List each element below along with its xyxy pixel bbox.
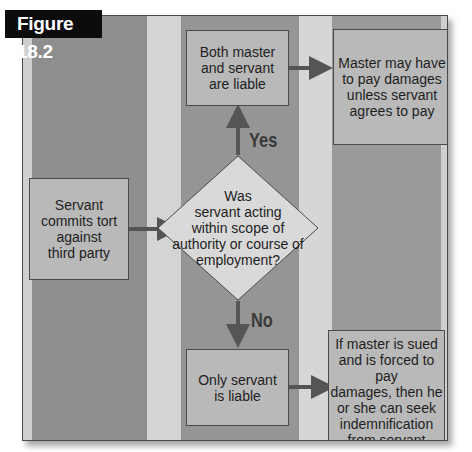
figure-label: Figure 18.2 [5, 10, 102, 38]
yes-label: Yes [249, 128, 277, 152]
decision-question: Was servant acting within scope of autho… [172, 188, 304, 268]
node-both-liable: Both master and servant are liable [186, 30, 289, 106]
decision-diamond: Was servant acting within scope of autho… [157, 155, 319, 301]
node-indemnification: If master is sued and is forced to pay d… [328, 330, 445, 441]
node-servant-commits-tort-text: Servant commits tort against third party [41, 197, 117, 261]
node-indemnification-text: If master is sued and is forced to pay d… [329, 336, 444, 442]
decision-text-container: Was servant acting within scope of autho… [157, 155, 319, 301]
flowchart-frame: Servant commits tort against third party… [22, 15, 448, 441]
node-only-servant-liable-text: Only servant is liable [198, 372, 277, 404]
node-master-may-pay-text: Master may have to pay damages unless se… [338, 55, 445, 119]
node-master-may-pay: Master may have to pay damages unless se… [333, 29, 448, 145]
node-servant-commits-tort: Servant commits tort against third party [29, 178, 129, 280]
node-both-liable-text: Both master and servant are liable [200, 44, 275, 92]
node-only-servant-liable: Only servant is liable [186, 349, 289, 426]
no-label: No [251, 308, 273, 332]
